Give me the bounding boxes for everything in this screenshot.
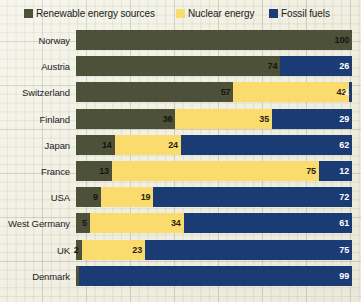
stacked-bar[interactable]: 363529: [76, 109, 352, 129]
category-label: USA: [51, 192, 70, 203]
bar-value-label: 9: [93, 193, 98, 202]
chart-row: Switzerland57421: [0, 82, 361, 102]
bar-segment-fossil[interactable]: 26: [280, 56, 352, 76]
bar-value-label: 61: [339, 219, 349, 228]
legend-label-fossil: Fossil fuels: [281, 8, 330, 19]
stacked-bar[interactable]: 100: [76, 30, 352, 50]
category-label: Japan: [45, 139, 70, 150]
category-label: West Germany: [8, 218, 70, 229]
chart-row: France137512: [0, 161, 361, 181]
chart-row: Norway100: [0, 30, 361, 50]
bar-value-label: 5: [82, 219, 87, 228]
legend-item-fossil: Fossil fuels: [269, 8, 330, 19]
bar-value-label: 100: [335, 36, 349, 45]
bar-value-label: 35: [259, 114, 269, 123]
bar-segment-fossil[interactable]: 75: [145, 240, 352, 260]
bar-value-label: 34: [171, 219, 181, 228]
bar-value-label: 1: [344, 88, 349, 97]
chart-row: Japan142462: [0, 135, 361, 155]
chart-legend: Renewable energy sources Nuclear energy …: [0, 4, 361, 24]
stacked-bar[interactable]: 53461: [76, 213, 352, 233]
bar-value-label: 75: [339, 245, 349, 254]
chart-row: UK22375: [0, 240, 361, 260]
bar-segment-nuclear[interactable]: 19: [101, 187, 153, 207]
bar-segment-renewable[interactable]: 74: [76, 56, 280, 76]
bar-segment-fossil[interactable]: 72: [153, 187, 352, 207]
category-label: Norway: [38, 35, 70, 46]
bar-segment-nuclear[interactable]: 23: [82, 240, 145, 260]
chart-row: Austria7426: [0, 56, 361, 76]
bar-value-label: 24: [168, 140, 178, 149]
category-label: France: [41, 166, 70, 177]
bar-value-label: 62: [339, 140, 349, 149]
stacked-bar[interactable]: 142462: [76, 135, 352, 155]
bar-segment-fossil[interactable]: 1: [349, 82, 352, 102]
chart-row: Finland363529: [0, 109, 361, 129]
stacked-bar[interactable]: 22375: [76, 240, 352, 260]
bar-value-label: 19: [141, 193, 151, 202]
legend-swatch-fossil: [269, 9, 278, 18]
category-label: Switzerland: [22, 87, 70, 98]
bar-segment-fossil[interactable]: 99: [79, 266, 352, 286]
bar-segment-renewable[interactable]: 36: [76, 109, 175, 129]
chart-row: Denmark99: [0, 266, 361, 286]
bar-value-label: 75: [306, 167, 316, 176]
category-label: Finland: [40, 113, 70, 124]
legend-label-nuclear: Nuclear energy: [188, 8, 254, 19]
stacked-bar[interactable]: 137512: [76, 161, 352, 181]
category-label: Denmark: [32, 270, 70, 281]
bar-segment-nuclear[interactable]: 75: [112, 161, 319, 181]
stacked-bar[interactable]: 99: [76, 266, 352, 286]
chart-row: West Germany53461: [0, 213, 361, 233]
legend-swatch-nuclear: [176, 9, 185, 18]
bar-segment-nuclear[interactable]: 35: [175, 109, 272, 129]
bar-value-label: 14: [102, 140, 112, 149]
bar-value-label: 72: [339, 193, 349, 202]
category-label: UK: [57, 244, 70, 255]
bar-segment-fossil[interactable]: 29: [272, 109, 352, 129]
stacked-bar-chart: Renewable energy sources Nuclear energy …: [0, 0, 361, 302]
bar-segment-renewable[interactable]: 13: [76, 161, 112, 181]
bar-value-label: 2: [74, 245, 79, 254]
bar-value-label: 12: [339, 167, 349, 176]
legend-label-renewable: Renewable energy sources: [36, 8, 155, 19]
bar-segment-renewable[interactable]: 57: [76, 82, 233, 102]
legend-item-nuclear: Nuclear energy: [176, 8, 254, 19]
bar-value-label: 99: [339, 271, 349, 280]
category-label: Austria: [41, 61, 70, 72]
bar-segment-fossil[interactable]: 12: [319, 161, 352, 181]
legend-item-renewable: Renewable energy sources: [24, 8, 155, 19]
chart-row: USA91972: [0, 187, 361, 207]
bar-segment-renewable[interactable]: 14: [76, 135, 115, 155]
bar-segment-nuclear[interactable]: 42: [233, 82, 349, 102]
stacked-bar[interactable]: 91972: [76, 187, 352, 207]
bar-segment-renewable[interactable]: 9: [76, 187, 101, 207]
bar-value-label: 13: [99, 167, 109, 176]
bar-segment-renewable[interactable]: 100: [76, 30, 352, 50]
bar-value-label: 26: [339, 62, 349, 71]
bar-segment-renewable[interactable]: 5: [76, 213, 90, 233]
bar-value-label: 57: [221, 88, 231, 97]
bar-value-label: 74: [268, 62, 278, 71]
stacked-bar[interactable]: 7426: [76, 56, 352, 76]
bar-value-label: 36: [163, 114, 173, 123]
bar-value-label: 23: [132, 245, 142, 254]
bar-value-label: 29: [339, 114, 349, 123]
bar-segment-fossil[interactable]: 62: [181, 135, 352, 155]
stacked-bar[interactable]: 57421: [76, 82, 352, 102]
bar-segment-fossil[interactable]: 61: [184, 213, 352, 233]
bar-segment-nuclear[interactable]: 24: [115, 135, 181, 155]
bar-segment-nuclear[interactable]: 34: [90, 213, 184, 233]
legend-swatch-renewable: [24, 9, 33, 18]
